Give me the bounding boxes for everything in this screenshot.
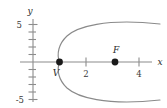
focus-point: [112, 59, 119, 66]
y-tick-label-neg5: -5: [16, 95, 24, 105]
y-axis-label: y: [26, 6, 33, 16]
parabola-upper-branch: [58, 22, 160, 62]
x-axis-label: x: [157, 57, 162, 67]
x-tick-label-4: 4: [136, 69, 141, 79]
vertex-point: [56, 59, 63, 66]
y-tick-label-5: 5: [17, 20, 22, 30]
parabola-figure: y x 5 -5 2 4 V F: [0, 0, 167, 108]
x-tick-label-2: 2: [83, 69, 88, 79]
focus-label: F: [112, 45, 120, 55]
parabola-lower-branch: [58, 62, 160, 102]
coordinate-plot: y x 5 -5 2 4 V F: [0, 0, 167, 108]
